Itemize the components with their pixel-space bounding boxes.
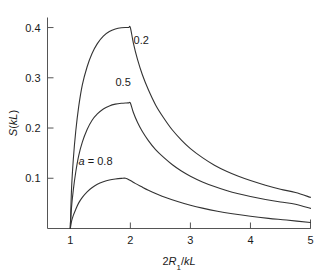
axes-spines <box>48 18 311 229</box>
y-axis-tickmarks <box>48 28 54 179</box>
y-axis-title: S(kL) <box>7 110 19 136</box>
y-tick-label-0.2: 0.2 <box>25 122 40 134</box>
x-axis-tick-labels: 12345 <box>67 234 313 246</box>
x-axis-tickmarks <box>70 223 310 229</box>
x-axis-title: 2R1/kL <box>162 255 195 272</box>
x-tick-label-1: 1 <box>67 234 73 246</box>
y-axis-tick-labels: 0.10.20.30.4 <box>25 22 40 185</box>
curve-a-0-8 <box>70 178 310 228</box>
x-tick-label-2: 2 <box>127 234 133 246</box>
data-curves <box>70 26 310 228</box>
curve-label-0: 0.2 <box>134 34 149 46</box>
curve-a-0-2 <box>70 26 310 228</box>
y-tick-label-0.3: 0.3 <box>25 72 40 84</box>
y-tick-label-0.1: 0.1 <box>25 172 40 184</box>
x-tick-label-5: 5 <box>307 234 313 246</box>
figure-container: 0.10.20.30.4 12345 0.20.5a = 0.8 2R1/kL … <box>0 0 327 274</box>
curve-label-1: 0.5 <box>116 76 131 88</box>
curve-annotations: 0.20.5a = 0.8 <box>79 34 149 167</box>
line-chart: 0.10.20.30.4 12345 0.20.5a = 0.8 2R1/kL … <box>0 0 327 274</box>
x-tick-label-4: 4 <box>247 234 253 246</box>
x-tick-label-3: 3 <box>187 234 193 246</box>
y-tick-label-0.4: 0.4 <box>25 22 40 34</box>
curve-label-2: a = 0.8 <box>79 155 113 167</box>
